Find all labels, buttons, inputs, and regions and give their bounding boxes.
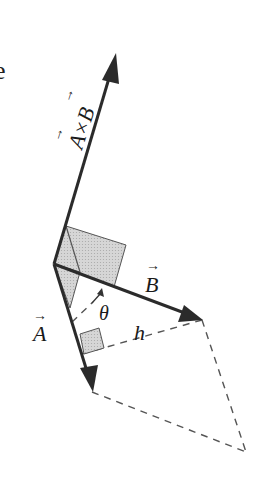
- height-label: h: [134, 320, 145, 345]
- angle-theta-label: θ: [99, 302, 109, 324]
- vector-b: [54, 264, 203, 322]
- vector-b-label: B: [145, 272, 158, 297]
- vector-b-arrow-icon: →: [146, 258, 160, 273]
- vector-a-arrow-icon: →: [33, 308, 47, 323]
- vector-a-label: A: [31, 321, 47, 346]
- angle-theta-arrow: [92, 288, 104, 303]
- arrow-over-b-icon: →: [59, 86, 78, 104]
- right-angle-marker-h: [80, 328, 104, 354]
- parallelogram-dashed-edges: [72, 302, 246, 452]
- cross-product-diagram: A×B → → B → A → θ h: [0, 0, 272, 480]
- cross-product-label: A×B: [62, 104, 99, 153]
- cross-product-text: A×B: [62, 104, 99, 153]
